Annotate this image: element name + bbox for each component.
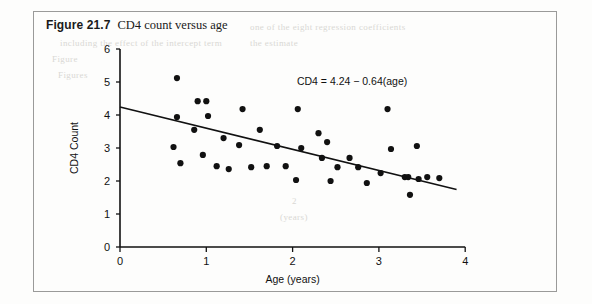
y-tick-label: 6 xyxy=(104,43,110,55)
y-axis-title: CD4 Count xyxy=(68,122,80,174)
x-tick-label: 1 xyxy=(203,255,209,267)
data-points xyxy=(170,75,442,198)
data-point xyxy=(205,113,211,119)
data-point xyxy=(226,166,232,172)
data-point xyxy=(324,139,330,145)
y-axis: 0123456 xyxy=(104,43,120,253)
x-tick-label: 0 xyxy=(117,255,123,267)
y-tick-label: 0 xyxy=(104,241,110,253)
data-point xyxy=(293,177,299,183)
data-point xyxy=(257,127,263,133)
x-tick-label: 3 xyxy=(376,255,382,267)
data-point xyxy=(174,75,180,81)
y-tick-label: 5 xyxy=(104,76,110,88)
regression-line xyxy=(120,107,457,189)
data-point xyxy=(191,127,197,133)
x-tick-label: 2 xyxy=(290,255,296,267)
data-point xyxy=(364,180,370,186)
data-point xyxy=(414,143,420,149)
data-point xyxy=(174,114,180,120)
data-point xyxy=(248,164,254,170)
fit-line xyxy=(120,107,457,189)
data-point xyxy=(170,144,176,150)
data-point xyxy=(239,106,245,112)
data-point xyxy=(436,175,442,181)
data-point xyxy=(214,163,220,169)
data-point xyxy=(236,142,242,148)
data-point xyxy=(384,106,390,112)
data-point xyxy=(220,135,226,141)
x-axis-title: Age (years) xyxy=(265,273,319,285)
x-axis: 01234 xyxy=(117,247,468,267)
data-point xyxy=(203,98,209,104)
figure-page: one of the eight regression coefficients… xyxy=(0,0,592,304)
regression-equation: CD4 = 4.24 − 0.64(age) xyxy=(297,75,407,87)
data-point xyxy=(315,130,321,136)
data-point xyxy=(264,163,270,169)
data-point xyxy=(327,178,333,184)
data-point xyxy=(177,160,183,166)
data-point xyxy=(295,106,301,112)
y-tick-label: 4 xyxy=(104,109,110,121)
data-point xyxy=(424,174,430,180)
data-point xyxy=(200,152,206,158)
data-point xyxy=(346,155,352,161)
y-tick-label: 3 xyxy=(104,142,110,154)
data-point xyxy=(388,146,394,152)
data-point xyxy=(334,164,340,170)
data-point xyxy=(195,98,201,104)
x-tick-label: 4 xyxy=(462,255,468,267)
data-point xyxy=(283,163,289,169)
axis-labels: Age (years)CD4 CountCD4 = 4.24 − 0.64(ag… xyxy=(68,75,407,285)
scatter-plot: 0123456 01234 Age (years)CD4 CountCD4 = … xyxy=(0,0,592,304)
y-tick-label: 2 xyxy=(104,175,110,187)
data-point xyxy=(407,192,413,198)
y-tick-label: 1 xyxy=(104,208,110,220)
